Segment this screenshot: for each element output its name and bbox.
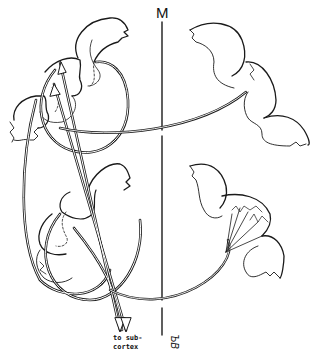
artist-signature: ЪВ: [169, 334, 180, 349]
cortex-connectivity-diagram: [0, 0, 317, 360]
to-subcortex-label-line1: to sub-: [113, 334, 143, 343]
right-upper-gyri: [190, 23, 309, 146]
to-subcortex-label-line2: cortex: [113, 343, 143, 352]
right-lower-gyri: [190, 164, 284, 278]
left-upper-gyri: [10, 18, 128, 142]
to-subcortex-label: to sub- cortex: [113, 334, 143, 352]
